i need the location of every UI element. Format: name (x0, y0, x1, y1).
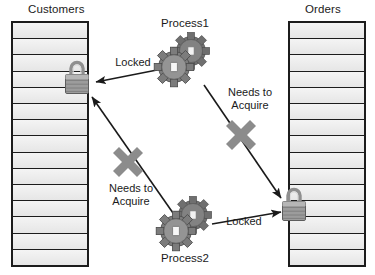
orders-padlock-icon (279, 185, 309, 223)
orders-table (288, 21, 366, 267)
table-row (13, 185, 87, 201)
table-row (290, 23, 364, 39)
process1-gear-icon (150, 32, 216, 88)
table-row (13, 250, 87, 265)
orders-table-title: Orders (305, 3, 341, 15)
table-row (290, 153, 364, 169)
table-row (290, 88, 364, 104)
blocker-x-icon-process1-orders (224, 118, 258, 152)
table-row (13, 23, 87, 39)
table-row (290, 234, 364, 250)
process2-label: Process2 (152, 252, 218, 264)
edge-label-process1-needs-acquire: Needs to Acquire (219, 86, 281, 111)
table-row (290, 39, 364, 55)
table-row (290, 120, 364, 136)
customers-table-title: Customers (28, 3, 85, 15)
edge-label-process2-locked: Locked (218, 215, 270, 228)
table-row (13, 201, 87, 217)
table-row (290, 104, 364, 120)
edge-label-process1-locked: Locked (107, 56, 159, 69)
customers-padlock-icon (62, 58, 92, 96)
blocker-x-icon-process2-customers (111, 145, 145, 179)
table-row (290, 72, 364, 88)
table-row (13, 136, 87, 152)
process1-label: Process1 (152, 17, 218, 29)
table-row (290, 55, 364, 71)
edge-label-process2-needs-acquire: Needs to Acquire (100, 182, 162, 207)
table-row (13, 217, 87, 233)
table-row (290, 169, 364, 185)
table-row (13, 104, 87, 120)
table-row (13, 120, 87, 136)
table-row (13, 39, 87, 55)
edge-process1-locked-customers (96, 70, 157, 82)
deadlock-diagram: Customers Orders (0, 0, 375, 275)
table-row (13, 234, 87, 250)
table-row (290, 250, 364, 265)
table-row (290, 136, 364, 152)
table-row (13, 169, 87, 185)
table-row (13, 153, 87, 169)
